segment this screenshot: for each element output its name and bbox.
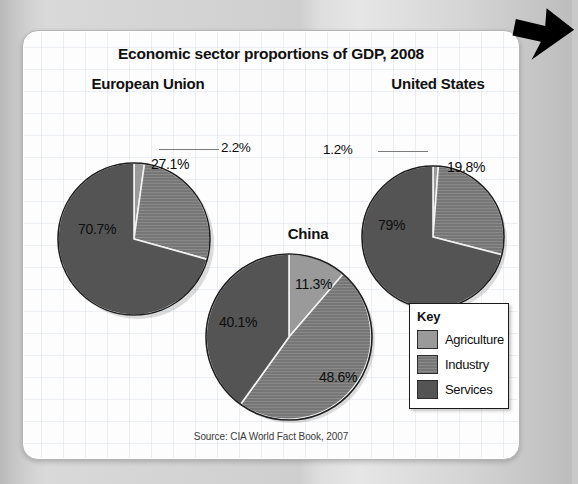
label-eu-agriculture: 2.2%: [221, 140, 251, 155]
label-us-agriculture: 1.2%: [323, 142, 353, 157]
leader-line-eu-agriculture: [159, 149, 219, 150]
legend-label-services: Services: [445, 382, 492, 397]
label-cn-industry: 48.6%: [319, 369, 357, 385]
page-title: Economic sector proportions of GDP, 2008: [23, 45, 519, 63]
label-eu-industry: 27.1%: [151, 156, 189, 172]
legend-item-services: Services: [417, 377, 502, 402]
pie-title-united-states: United States: [353, 75, 520, 92]
pie-title-china: China: [223, 225, 393, 242]
label-us-industry: 19.8%: [447, 159, 485, 175]
legend-swatch-industry: [417, 355, 438, 374]
legend-swatch-services: [417, 380, 438, 399]
leader-line-us-agriculture: [378, 151, 428, 152]
legend-title: Key: [417, 309, 502, 324]
legend-item-industry: Industry: [417, 352, 502, 377]
pie-chart-china: [203, 251, 378, 426]
legend: Key Agriculture Industry Services: [409, 303, 509, 409]
chart-card: Economic sector proportions of GDP, 2008…: [22, 30, 520, 460]
legend-label-industry: Industry: [445, 357, 489, 372]
legend-item-agriculture: Agriculture: [417, 327, 502, 352]
label-cn-agriculture: 11.3%: [295, 276, 332, 292]
pie-chart-european-union: [56, 159, 216, 319]
label-cn-services: 40.1%: [219, 314, 257, 330]
legend-swatch-agriculture: [417, 330, 438, 349]
legend-label-agriculture: Agriculture: [445, 332, 504, 347]
label-eu-services: 70.7%: [78, 221, 116, 237]
pie-title-european-union: European Union: [53, 75, 243, 92]
source-note: Source: CIA World Fact Book, 2007: [23, 431, 519, 442]
